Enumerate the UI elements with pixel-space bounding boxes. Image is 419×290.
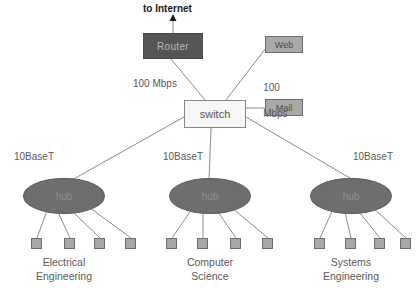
host-square[interactable] [230,238,241,249]
host-square[interactable] [345,238,356,249]
web-link-speed-label: 100 Mbps [252,68,288,133]
department-label-systems-engineering: Systems Engineering [296,255,406,283]
web-server-node[interactable]: Web [265,36,303,53]
hub-node-systems-engineering[interactable]: hub [310,178,392,214]
edge-hub1-host1 [37,208,48,238]
web-link-speed-line1: 100 [263,82,280,93]
department-label-line2: Engineering [323,270,379,282]
host-square[interactable] [31,238,42,249]
edge-hub3-host2 [345,212,351,238]
department-label-line1: Systems [331,256,371,268]
host-square[interactable] [166,238,177,249]
edge-hub1-host3 [72,211,100,238]
hub-link-label-3: 10BaseT [353,151,393,163]
router-node[interactable]: Router [143,33,203,59]
host-square[interactable] [197,238,208,249]
hub-node-computer-science[interactable]: hub [169,178,251,214]
router-link-speed-label: 100 Mbps [133,78,177,90]
edge-switch-hub-2 [209,128,211,180]
department-label-line2: Science [191,270,228,282]
edge-hub2-host3 [218,212,236,238]
host-square[interactable] [374,238,385,249]
edge-hub1-host4 [86,205,131,238]
host-square[interactable] [400,238,411,249]
web-link-speed-line2: Mbps [263,108,287,119]
connection-lines [0,0,419,290]
edge-hub1-host2 [58,212,70,238]
to-internet-label: to Internet [143,3,192,15]
host-square[interactable] [262,238,273,249]
host-square[interactable] [64,238,75,249]
edge-hub2-host1 [172,209,192,238]
switch-node[interactable]: switch [184,100,246,128]
host-square[interactable] [125,238,136,249]
internet-arrowhead [170,14,177,21]
edge-hub3-host4 [372,207,406,238]
edge-hub3-host1 [320,209,333,238]
hub-node-electrical-engineering[interactable]: hub [23,178,105,214]
hub-link-label-2: 10BaseT [163,151,203,163]
department-label-computer-science: Computer Science [155,255,265,283]
network-diagram-canvas: to Internet Router Web Mail switch hub h… [0,0,419,290]
edge-switch-hub-1 [70,117,184,181]
host-square[interactable] [314,238,325,249]
department-label-line1: Computer [187,256,233,268]
department-label-electrical-engineering: Electrical Engineering [9,255,119,283]
edge-hub3-host3 [359,212,380,238]
department-label-line2: Engineering [36,270,92,282]
hub-link-label-1: 10BaseT [14,151,54,163]
host-square[interactable] [94,238,105,249]
department-label-line1: Electrical [43,256,86,268]
edge-hub2-host4 [231,207,268,238]
